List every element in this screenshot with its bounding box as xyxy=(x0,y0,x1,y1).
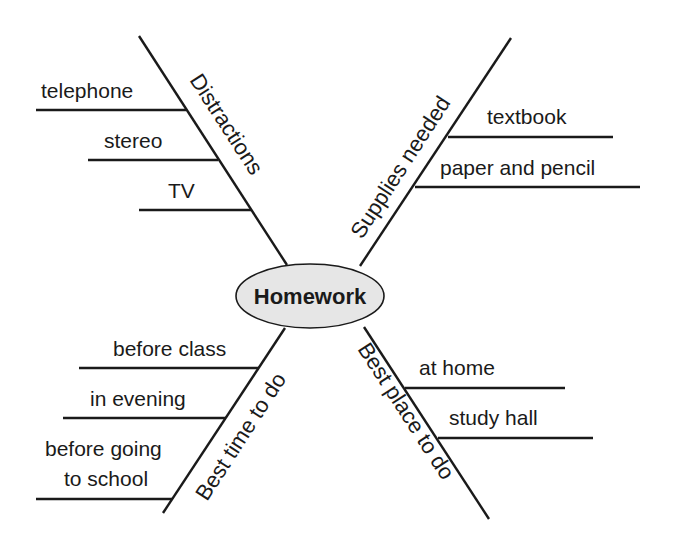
item-label: before class xyxy=(113,337,226,360)
branch-best-time: Best time to do before class in evening … xyxy=(36,328,291,513)
item-label: paper and pencil xyxy=(440,156,595,179)
item-label: at home xyxy=(419,356,495,379)
item-label: TV xyxy=(168,179,195,202)
spider-map: Distractions telephone stereo TV Supplie… xyxy=(0,0,676,545)
branch-line xyxy=(360,38,511,266)
item-label: in evening xyxy=(90,387,186,410)
item-label: telephone xyxy=(41,79,133,102)
branch-supplies-needed: Supplies needed textbook paper and penci… xyxy=(345,38,640,266)
center-node: Homework xyxy=(236,264,384,328)
item-label: before going xyxy=(45,437,162,460)
item-label: to school xyxy=(64,467,148,490)
center-label: Homework xyxy=(254,284,367,309)
branch-label: Best time to do xyxy=(190,368,291,505)
branch-label: Supplies needed xyxy=(345,92,455,243)
item-label: stereo xyxy=(104,129,162,152)
item-label: study hall xyxy=(449,406,538,429)
branch-distractions: Distractions telephone stereo TV xyxy=(36,36,287,265)
item-label: textbook xyxy=(487,105,567,128)
branch-best-place: Best place to do at home study hall xyxy=(353,327,593,519)
